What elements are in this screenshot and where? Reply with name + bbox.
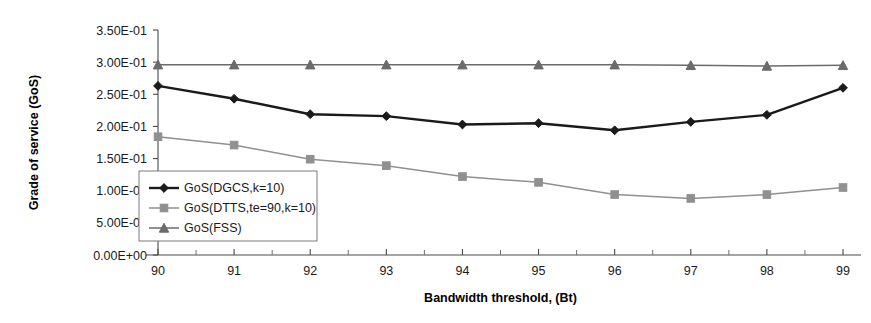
gos-line-chart: 0.00E+005.00E-021.00E-011.50E-012.00E-01… bbox=[0, 0, 871, 323]
marker-diamond bbox=[686, 118, 695, 127]
legend-label: GoS(DGCS,k=10) bbox=[184, 181, 284, 195]
series-line bbox=[158, 65, 843, 66]
marker-square bbox=[459, 173, 467, 181]
x-tick-label: 92 bbox=[303, 264, 317, 278]
marker-diamond bbox=[610, 126, 619, 135]
x-tick-label: 98 bbox=[760, 264, 774, 278]
marker-square bbox=[154, 133, 162, 141]
y-tick-label: 2.50E-01 bbox=[96, 88, 147, 102]
marker-square bbox=[306, 155, 314, 163]
x-tick-label: 99 bbox=[836, 264, 850, 278]
chart-container: 0.00E+005.00E-021.00E-011.50E-012.00E-01… bbox=[0, 0, 871, 323]
marker-square bbox=[383, 162, 391, 170]
marker-square bbox=[763, 191, 771, 199]
y-tick-label: 3.50E-01 bbox=[96, 24, 147, 38]
marker-square bbox=[535, 179, 543, 187]
marker-square bbox=[160, 204, 168, 212]
y-tick-label: 1.50E-01 bbox=[96, 152, 147, 166]
x-tick-label: 90 bbox=[151, 264, 165, 278]
series-diamond bbox=[154, 82, 848, 135]
x-tick-label: 91 bbox=[227, 264, 241, 278]
marker-diamond bbox=[839, 83, 848, 92]
y-tick-label: 0.00E+00 bbox=[93, 249, 147, 263]
x-tick-label: 93 bbox=[379, 264, 393, 278]
x-axis-title: Bandwidth threshold, (Bt) bbox=[424, 291, 577, 305]
x-tick-label: 95 bbox=[532, 264, 546, 278]
marker-diamond bbox=[382, 112, 391, 121]
legend-label: GoS(DTTS,te=90,k=10) bbox=[184, 201, 316, 215]
series-line bbox=[158, 86, 843, 130]
marker-diamond bbox=[458, 120, 467, 129]
marker-diamond bbox=[534, 119, 543, 128]
legend-label: GoS(FSS) bbox=[184, 221, 242, 235]
x-tick-label: 97 bbox=[684, 264, 698, 278]
y-axis-title: Grade of service (GoS) bbox=[27, 75, 41, 210]
marker-diamond bbox=[306, 110, 315, 119]
marker-diamond bbox=[154, 82, 163, 91]
marker-diamond bbox=[762, 110, 771, 119]
series-triangle bbox=[153, 60, 847, 70]
x-tick-label: 94 bbox=[455, 264, 469, 278]
x-tick-label: 96 bbox=[608, 264, 622, 278]
y-tick-label: 2.00E-01 bbox=[96, 120, 147, 134]
marker-square bbox=[839, 184, 847, 192]
marker-square bbox=[687, 195, 695, 203]
marker-square bbox=[611, 191, 619, 199]
marker-diamond bbox=[230, 94, 239, 103]
marker-square bbox=[230, 141, 238, 149]
y-tick-label: 3.00E-01 bbox=[96, 56, 147, 70]
legend: GoS(DGCS,k=10)GoS(DTTS,te=90,k=10)GoS(FS… bbox=[139, 171, 317, 241]
